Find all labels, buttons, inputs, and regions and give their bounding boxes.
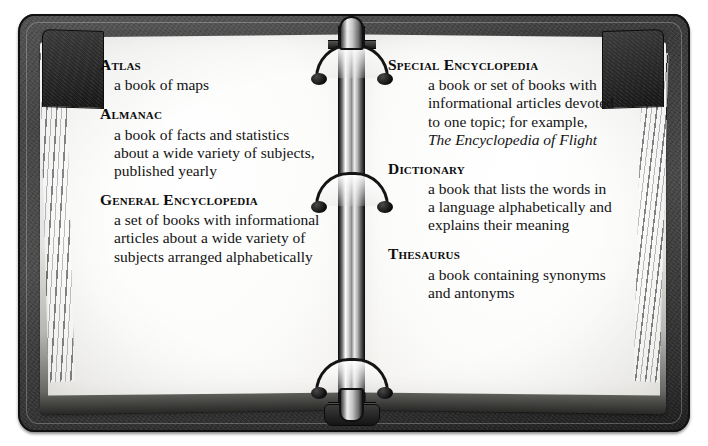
- term-atlas: Atlas: [100, 56, 326, 74]
- definition-dictionary: a book that lists the words in a languag…: [388, 180, 614, 234]
- entry-thesaurus: Thesaurus a book containing synonyms and…: [388, 245, 614, 302]
- term-special-encyclopedia: Special Encyclopedia: [388, 56, 614, 74]
- entry-almanac: Almanac a book of facts and statistics a…: [100, 105, 326, 180]
- definition-special-encyclopedia-text: a book or set of books with informationa…: [428, 76, 614, 129]
- term-almanac: Almanac: [100, 105, 326, 123]
- binder-pocket-left: [42, 29, 104, 109]
- definition-almanac: a book of facts and statistics about a w…: [100, 126, 326, 180]
- definition-special-encyclopedia: a book or set of books with informationa…: [388, 76, 614, 149]
- definition-atlas: a book of maps: [100, 76, 326, 94]
- definition-general-encyclopedia: a set of books with informational articl…: [100, 211, 326, 265]
- entry-atlas: Atlas a book of maps: [100, 56, 326, 94]
- definition-thesaurus: a book containing synonyms and antonyms: [388, 266, 614, 302]
- term-thesaurus: Thesaurus: [388, 245, 614, 263]
- definition-special-encyclopedia-title: The Encyclopedia of Flight: [428, 131, 597, 148]
- right-page-text-column: Special Encyclopedia a book or set of bo…: [388, 56, 614, 302]
- entry-dictionary: Dictionary a book that lists the words i…: [388, 160, 614, 235]
- entry-special-encyclopedia: Special Encyclopedia a book or set of bo…: [388, 56, 614, 149]
- binder-illustration: Atlas a book of maps Almanac a book of f…: [0, 0, 708, 446]
- term-general-encyclopedia: General Encyclopedia: [100, 191, 326, 209]
- binder-clasp-top: [339, 16, 364, 50]
- term-dictionary: Dictionary: [388, 160, 614, 178]
- binder-clasp-bottom: [339, 388, 364, 422]
- left-page-text-column: Atlas a book of maps Almanac a book of f…: [100, 56, 326, 266]
- entry-general-encyclopedia: General Encyclopedia a set of books with…: [100, 191, 326, 266]
